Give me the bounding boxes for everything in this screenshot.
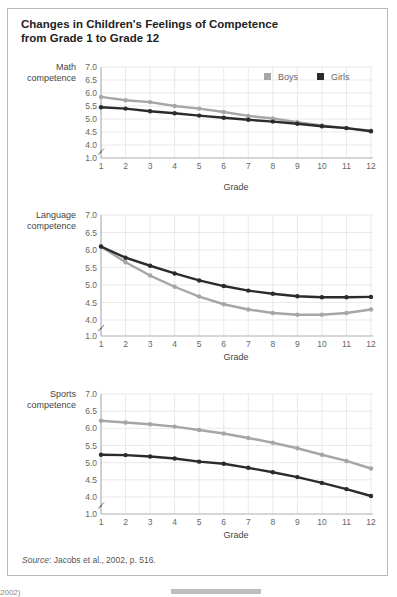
y-tick-label: 4.5 bbox=[85, 475, 97, 485]
x-tick-label: 7 bbox=[246, 161, 251, 171]
x-axis-label: Grade bbox=[223, 530, 248, 540]
x-tick-label: 12 bbox=[366, 161, 376, 171]
x-tick-label: 12 bbox=[366, 339, 376, 349]
data-point bbox=[246, 466, 250, 470]
data-point bbox=[271, 311, 275, 315]
x-tick-label: 11 bbox=[342, 339, 351, 349]
source-text: : Jacobs et al., 2002, p. 516. bbox=[49, 555, 156, 565]
y-tick-label: 6.5 bbox=[85, 75, 97, 85]
y-tick-label: 6.0 bbox=[85, 245, 97, 255]
data-point bbox=[271, 441, 275, 445]
series-line-boys bbox=[101, 247, 371, 315]
data-point bbox=[320, 453, 324, 457]
data-point bbox=[148, 422, 152, 426]
page-scroll-indicator bbox=[171, 589, 261, 594]
data-point bbox=[172, 424, 176, 428]
y-tick-label: 4.5 bbox=[85, 127, 97, 137]
x-tick-label: 11 bbox=[342, 161, 351, 171]
y-tick-label: 1.0 bbox=[85, 331, 97, 341]
x-tick-label: 4 bbox=[172, 161, 177, 171]
data-point bbox=[295, 313, 299, 317]
data-point bbox=[344, 295, 348, 299]
data-point bbox=[246, 118, 250, 122]
data-point bbox=[197, 294, 201, 298]
data-point bbox=[197, 278, 201, 282]
x-tick-label: 4 bbox=[172, 517, 177, 527]
series-line-girls bbox=[101, 455, 371, 496]
data-point bbox=[369, 494, 373, 498]
data-point bbox=[369, 307, 373, 311]
y-axis-label: competence bbox=[27, 73, 76, 83]
source-label: Source bbox=[22, 555, 49, 565]
x-tick-label: 11 bbox=[342, 517, 351, 527]
data-point bbox=[123, 260, 127, 264]
data-point bbox=[246, 288, 250, 292]
x-tick-label: 10 bbox=[317, 339, 327, 349]
data-point bbox=[320, 481, 324, 485]
y-axis-label: Language bbox=[36, 210, 76, 220]
x-tick-label: 3 bbox=[148, 339, 153, 349]
data-point bbox=[271, 470, 275, 474]
x-tick-label: 2 bbox=[123, 161, 128, 171]
data-point bbox=[148, 273, 152, 277]
y-axis-label: Math bbox=[56, 62, 76, 72]
y-axis-label: competence bbox=[27, 400, 76, 410]
x-tick-label: 7 bbox=[246, 517, 251, 527]
legend-label-girls: Girls bbox=[331, 72, 350, 82]
x-tick-label: 12 bbox=[366, 517, 376, 527]
data-point bbox=[172, 104, 176, 108]
data-point bbox=[271, 119, 275, 123]
data-point bbox=[197, 106, 201, 110]
data-point bbox=[222, 461, 226, 465]
data-point bbox=[271, 292, 275, 296]
data-point bbox=[222, 110, 226, 114]
data-point bbox=[222, 302, 226, 306]
data-point bbox=[148, 100, 152, 104]
x-tick-label: 1 bbox=[99, 517, 104, 527]
y-axis-label: competence bbox=[27, 221, 76, 231]
x-axis-label: Grade bbox=[223, 182, 248, 192]
source-note: Source: Jacobs et al., 2002, p. 516. bbox=[22, 555, 156, 565]
data-point bbox=[369, 129, 373, 133]
data-point bbox=[172, 456, 176, 460]
legend-label-boys: Boys bbox=[278, 72, 299, 82]
y-tick-label: 6.0 bbox=[85, 88, 97, 98]
data-point bbox=[295, 121, 299, 125]
y-tick-label: 4.5 bbox=[85, 298, 97, 308]
page-fragment-text: 2002) bbox=[0, 588, 20, 597]
y-tick-label: 6.5 bbox=[85, 406, 97, 416]
x-tick-label: 6 bbox=[221, 517, 226, 527]
data-point bbox=[320, 313, 324, 317]
data-point bbox=[172, 111, 176, 115]
x-tick-label: 8 bbox=[270, 517, 275, 527]
data-point bbox=[222, 284, 226, 288]
x-tick-label: 9 bbox=[295, 517, 300, 527]
data-point bbox=[172, 271, 176, 275]
chart-panel-3: 1.04.04.55.05.56.06.57.0123456789101112G… bbox=[27, 389, 376, 540]
data-point bbox=[246, 436, 250, 440]
x-tick-label: 10 bbox=[317, 161, 327, 171]
data-point bbox=[222, 431, 226, 435]
y-tick-label: 7.0 bbox=[85, 210, 97, 220]
x-tick-label: 6 bbox=[221, 339, 226, 349]
x-tick-label: 3 bbox=[148, 517, 153, 527]
data-point bbox=[123, 98, 127, 102]
y-tick-label: 1.0 bbox=[85, 153, 97, 163]
data-point bbox=[344, 311, 348, 315]
x-tick-label: 2 bbox=[123, 517, 128, 527]
legend: BoysGirls bbox=[264, 72, 350, 82]
data-point bbox=[246, 114, 250, 118]
x-tick-label: 7 bbox=[246, 339, 251, 349]
x-tick-label: 8 bbox=[270, 161, 275, 171]
y-tick-label: 6.5 bbox=[85, 228, 97, 238]
data-point bbox=[320, 124, 324, 128]
y-tick-label: 1.0 bbox=[85, 509, 97, 519]
chart-panel-1: 1.04.04.55.05.56.06.57.0123456789101112G… bbox=[27, 62, 376, 192]
y-tick-label: 5.5 bbox=[85, 101, 97, 111]
data-point bbox=[320, 295, 324, 299]
series-line-boys bbox=[101, 97, 371, 131]
legend-swatch-boys bbox=[264, 73, 271, 80]
data-point bbox=[369, 466, 373, 470]
chart-panel-2: 1.04.04.55.05.56.06.57.0123456789101112G… bbox=[27, 210, 376, 362]
